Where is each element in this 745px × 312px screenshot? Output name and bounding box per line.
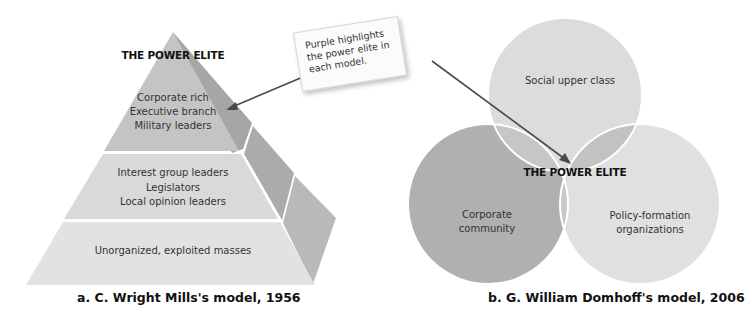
circle-corporate-label: Corporate community [447,208,527,236]
pyramid-tier-mid-label-2: Legislators [98,180,248,195]
venn-center-label: THE POWER ELITE [510,165,640,180]
callout-text: Purple highlights the power elite in eac… [304,25,404,76]
pyramid-tier-mid-label-3: Local opinion leaders [98,194,248,209]
circle-policy-label: Policy-formation organizations [600,209,700,237]
pyramid-arrow-line [232,74,310,107]
circle-social-label: Social upper class [515,73,625,88]
pyramid-title: THE POWER ELITE [118,48,228,63]
venn-caption: b. G. William Domhoff's model, 2006 [488,290,745,305]
pyramid-tier-top-label-1: Corporate rich [118,90,228,105]
pyramid-tier-bottom-label: Unorganized, exploited masses [88,243,258,258]
pyramid-caption: a. C. Wright Mills's model, 1956 [77,290,301,305]
pyramid-tier-top-label-3: Military leaders [118,118,228,133]
venn [408,18,720,284]
pyramid-tier-mid-label-1: Interest group leaders [98,165,248,180]
pyramid-tier-top-label-2: Executive branch [118,104,228,119]
